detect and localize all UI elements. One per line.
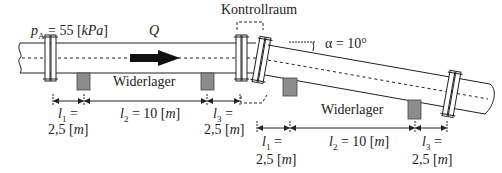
flow-arrow: [130, 50, 180, 66]
support-3: [283, 78, 297, 96]
support-1: [77, 73, 90, 90]
right-dim-l3: l3 =: [422, 135, 442, 152]
right-dim-l1: l1 =: [262, 135, 282, 152]
support-label-left: Widerlager: [113, 75, 175, 89]
pressure-label: pA = 55 [kPa]: [31, 24, 108, 41]
right-dim-l3-value: 2,5 [m]: [412, 153, 452, 167]
flow-label: Q: [149, 24, 159, 38]
right-dim-l1-value: 2,5 [m]: [256, 153, 296, 167]
left-dim-l2: l2 = 10 [m]: [120, 107, 180, 124]
angle-label: α = 10°: [325, 37, 367, 51]
left-dim-l1-value: 2,5 [m]: [48, 123, 88, 137]
support-4: [408, 100, 421, 119]
right-dimension-line: [257, 121, 447, 133]
left-dimension-line: [53, 94, 240, 106]
support-2: [201, 73, 214, 90]
left-flange: [43, 35, 58, 81]
control-volume-label: Kontrollraum: [221, 3, 297, 17]
middle-flange: [234, 35, 249, 81]
right-dim-l2: l2 = 10 [m]: [329, 135, 389, 152]
left-dim-l3-value: 2,5 [m]: [204, 123, 244, 137]
support-label-right: Widerlager: [321, 103, 383, 117]
